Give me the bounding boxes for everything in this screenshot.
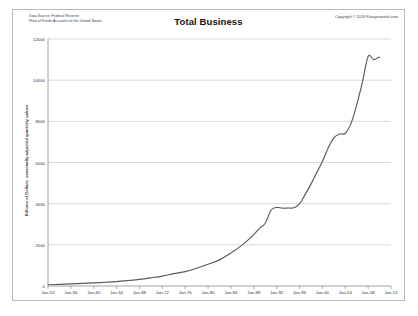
x-axis-tick-label: Jan-72 [156, 290, 169, 295]
y-axis-tick-label: 6000 [35, 160, 45, 165]
x-axis-tick-label: Jan-84 [224, 290, 237, 295]
gridlines [48, 39, 391, 245]
x-axis-tick-label: Jan-64 [110, 290, 123, 295]
x-axis-tick-label: Jan-68 [133, 290, 146, 295]
y-axis-tick-label: 0 [43, 284, 45, 289]
x-axis-tick-label: Jan-04 [339, 290, 352, 295]
y-axis-tick-label: 8000 [35, 119, 45, 124]
chart-container: Data Source: Federal Reserve Flow of Fun… [12, 9, 405, 301]
x-axis-tick-label: Jan-96 [293, 290, 306, 295]
chart-title: Total Business [13, 16, 404, 27]
y-axis-tick-label: 2000 [35, 242, 45, 247]
x-axis-tick-label: Jan-12 [384, 290, 397, 295]
y-axis-tick-label: 10000 [33, 78, 45, 83]
y-axis-title: Billions of Dollars, seasonally adjusted… [24, 96, 29, 226]
x-axis-tick-label: Jan-60 [87, 290, 100, 295]
x-axis-tick-label: Jan-56 [64, 290, 77, 295]
plot-area: 020004000600080001000012000 Jan-52Jan-56… [48, 39, 391, 286]
y-axis-tick-label: 12000 [33, 37, 45, 42]
x-axis-tick-label: Jan-00 [316, 290, 329, 295]
y-axis-tick-label: 4000 [35, 201, 45, 206]
x-axis-tick-label: Jan-88 [247, 290, 260, 295]
x-axis-tick-label: Jan-52 [41, 290, 54, 295]
x-axis-tick-label: Jan-76 [179, 290, 192, 295]
data-line-total-business [48, 55, 380, 284]
x-axis-tick-label: Jan-80 [202, 290, 215, 295]
x-axis-tick-label: Jan-92 [270, 290, 283, 295]
line-chart-svg [48, 39, 391, 286]
x-axis-tick-label: Jan-08 [362, 290, 375, 295]
x-tickmarks [48, 286, 391, 289]
